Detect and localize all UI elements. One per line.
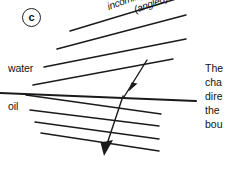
medium-boundary-line <box>0 93 196 101</box>
side-note-line-2: cha <box>205 75 225 89</box>
side-note-line-3: dire <box>205 89 225 103</box>
medium-label-oil: oil <box>8 101 18 112</box>
medium-label-water: water <box>8 63 33 74</box>
panel-label-c: c <box>22 8 41 27</box>
refracted-wavefront-4 <box>41 133 159 151</box>
incident-wavefront-4 <box>33 59 173 85</box>
side-note-line-5: bou <box>205 117 225 131</box>
refracted-ray <box>101 96 124 156</box>
incident-wavefront-3 <box>44 39 186 67</box>
refracted-wavefront-3 <box>35 122 159 139</box>
refraction-diagram: c incoming light wave (angled) water oil… <box>0 0 225 171</box>
refracted-wavefront-group <box>26 95 161 151</box>
side-note-line-1: The <box>205 61 225 75</box>
side-note-line-4: the <box>205 103 225 117</box>
side-note-text: The cha dire the bou <box>205 61 225 131</box>
refracted-ray-arrowhead <box>101 140 114 156</box>
